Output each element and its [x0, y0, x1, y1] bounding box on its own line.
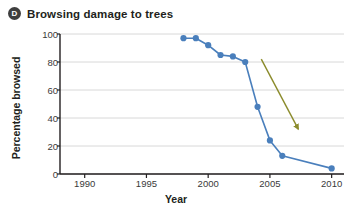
chart-figure: D Browsing damage to trees Percentage br…: [0, 0, 352, 219]
chart-area: Percentage browsed 020406080100 19901995…: [0, 26, 352, 219]
data-point-marker: [230, 53, 236, 59]
data-point-marker: [242, 59, 248, 65]
data-point-marker: [193, 35, 199, 41]
x-axis-label: Year: [0, 193, 352, 205]
series-line: [183, 38, 331, 168]
plot-canvas: [0, 26, 352, 219]
figure-label-badge: D: [8, 7, 21, 20]
data-point-marker: [267, 137, 273, 143]
data-point-marker: [254, 104, 260, 110]
data-point-marker: [279, 153, 285, 159]
data-point-marker: [329, 165, 335, 171]
figure-header: D Browsing damage to trees: [8, 7, 173, 20]
trend-arrow-annotation: [261, 59, 298, 129]
data-point-marker: [205, 42, 211, 48]
data-point-marker: [217, 52, 223, 58]
data-point-marker: [180, 35, 186, 41]
page-title: Browsing damage to trees: [27, 8, 173, 20]
